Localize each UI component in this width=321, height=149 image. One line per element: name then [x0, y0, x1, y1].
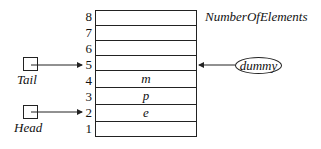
head-label: Head [14, 120, 42, 136]
array-row-7 [96, 25, 196, 40]
cell-value: p [143, 88, 150, 104]
tail-pointer-box [23, 57, 38, 71]
row-index: 6 [80, 41, 92, 57]
array-row-4: m [96, 70, 196, 87]
dummy-label: dummy [240, 58, 278, 74]
array-row-5 [96, 55, 196, 70]
dummy-node: dummy [235, 57, 282, 74]
array-row-8 [96, 11, 196, 25]
row-index: 3 [80, 89, 92, 105]
array-row-2: e [96, 104, 196, 121]
cell-value: m [141, 71, 150, 87]
row-index: 4 [80, 73, 92, 89]
cell-value: e [143, 105, 149, 121]
array-row-1 [96, 121, 196, 136]
array-label: NumberOfElements [205, 9, 308, 25]
row-index: 8 [80, 9, 92, 25]
array-row-3: p [96, 87, 196, 104]
row-index: 1 [80, 121, 92, 137]
row-index: 7 [80, 25, 92, 41]
head-pointer-box [23, 105, 38, 119]
array-table: e p m [95, 10, 197, 137]
row-index: 5 [80, 57, 92, 73]
row-index: 2 [80, 105, 92, 121]
array-row-6 [96, 40, 196, 55]
tail-label: Tail [17, 72, 37, 88]
